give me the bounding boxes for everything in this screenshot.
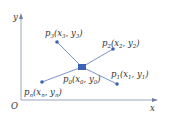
y-axis-label: y	[12, 12, 18, 22]
point-pn	[40, 80, 44, 84]
edge-p0-p3	[57, 42, 82, 67]
origin-label: O	[11, 101, 18, 111]
label-p1: p1(x1, y1)	[111, 69, 149, 80]
point-p1	[115, 82, 119, 86]
y-axis-arrow-icon	[19, 13, 23, 19]
label-p2: p2(x2, y2)	[102, 38, 140, 49]
diagram-canvas: y O x p3(x3, y3) p2(x2, y2) p0(x0, y0) p…	[0, 0, 169, 114]
edge-p0-p2	[82, 49, 113, 67]
label-p3: p3(x3, y3)	[45, 28, 83, 39]
point-p3	[55, 40, 59, 44]
label-p0: p0(x0, y0)	[63, 74, 101, 85]
label-pn: pn(xn, yn)	[24, 87, 62, 98]
x-axis-arrow-icon	[152, 98, 158, 102]
x-axis-label: x	[150, 103, 155, 113]
axes: y O x	[11, 12, 158, 113]
center-point-p0	[78, 64, 86, 70]
